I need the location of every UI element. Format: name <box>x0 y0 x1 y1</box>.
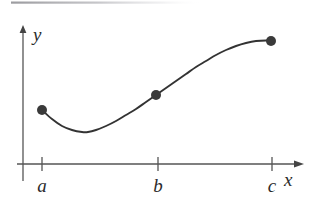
figure-canvas: y x a b c <box>0 0 314 206</box>
x-axis-arrowhead <box>294 160 304 167</box>
curve-point-a <box>37 105 47 115</box>
x-axis-label: x <box>283 169 293 190</box>
x-tick-label-c: c <box>268 175 277 196</box>
curve-point-c <box>266 36 276 46</box>
y-axis-arrowhead <box>20 25 27 33</box>
curve-point-b <box>151 90 161 100</box>
function-curve <box>42 41 271 133</box>
y-axis-label: y <box>31 24 42 45</box>
curve-figure: y x a b c <box>0 0 314 206</box>
x-tick-label-b: b <box>153 175 163 196</box>
x-tick-label-a: a <box>37 175 47 196</box>
scan-artifact-line <box>11 2 203 4</box>
